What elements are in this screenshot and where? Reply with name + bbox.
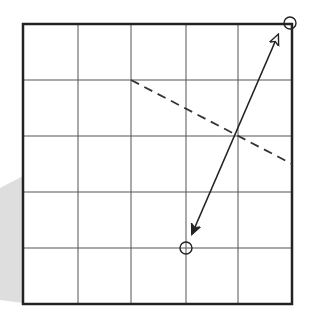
dashed-line [131,80,292,164]
grid-lines [23,24,292,304]
grid-diagram [0,0,309,326]
shaded-region [0,176,23,303]
grid-frame [23,24,292,304]
double-arrow [192,35,278,234]
